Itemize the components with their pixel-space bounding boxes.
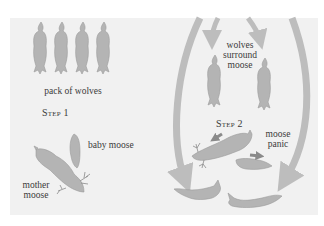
baby-moose-icon bbox=[70, 134, 80, 168]
left-inner-arrow-icon bbox=[212, 18, 218, 40]
moose-panic-label: moose panic bbox=[262, 129, 294, 149]
right-outer-arrow-icon bbox=[285, 18, 307, 180]
wolf-icon bbox=[174, 180, 221, 200]
step1-title: Step 1 bbox=[42, 108, 69, 118]
surround-label-line1: wolves bbox=[216, 40, 264, 50]
wolves-surround-moose-label: wolves surround moose bbox=[216, 40, 264, 70]
wolf-icon bbox=[55, 22, 68, 74]
panic-label-line1: moose bbox=[262, 129, 294, 139]
step2-lying-wolves bbox=[174, 180, 282, 208]
surround-label-line3: moose bbox=[216, 60, 264, 70]
mother-moose-label-line2: moose bbox=[18, 190, 54, 200]
mother-moose-label: mother moose bbox=[18, 180, 54, 200]
wolf-pack bbox=[34, 22, 110, 74]
surround-label-line2: surround bbox=[216, 50, 264, 60]
pack-of-wolves-label: pack of wolves bbox=[28, 86, 118, 96]
right-inner-arrow-icon bbox=[248, 18, 260, 40]
arrow-icon bbox=[214, 134, 222, 139]
arrow-icon bbox=[250, 155, 260, 156]
panic-label-line2: panic bbox=[262, 139, 294, 149]
baby-moose-label: baby moose bbox=[88, 140, 134, 150]
wolf-icon bbox=[228, 193, 282, 208]
step2-baby-moose-icon bbox=[236, 159, 272, 170]
step2-title: Step 2 bbox=[216, 119, 243, 129]
wolf-icon bbox=[76, 22, 89, 74]
wolf-icon bbox=[34, 22, 47, 74]
mother-moose-label-line1: mother bbox=[18, 180, 54, 190]
wolf-icon bbox=[97, 22, 110, 74]
